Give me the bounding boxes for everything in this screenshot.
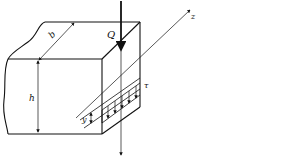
label-z: z bbox=[190, 12, 196, 21]
label-tau: τ bbox=[144, 81, 149, 90]
diagram-svg: b h z Q τ y bbox=[0, 0, 299, 167]
label-b: b bbox=[46, 29, 57, 40]
label-h: h bbox=[29, 93, 35, 103]
beam-block bbox=[4, 22, 140, 134]
dimension-b bbox=[39, 23, 74, 60]
z-axis bbox=[76, 10, 190, 118]
beam-shear-diagram: b h z Q τ y bbox=[0, 0, 299, 167]
label-Q: Q bbox=[107, 29, 115, 40]
label-y: y bbox=[81, 115, 87, 124]
